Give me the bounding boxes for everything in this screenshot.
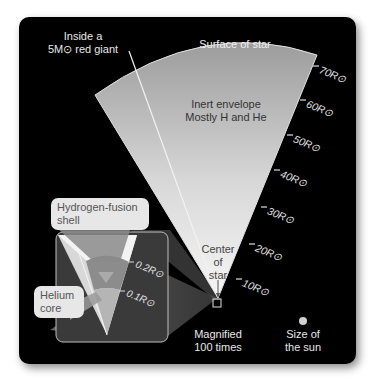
hydrogen-shell-line-1: Hydrogen-fusion: [57, 201, 143, 214]
magnified-line-2: 100 times: [188, 341, 248, 354]
helium-core-callout: Helium core: [34, 286, 84, 318]
envelope-label: Inert envelope Mostly H and He: [166, 98, 286, 124]
sun-size-dot: [299, 317, 307, 325]
magnified-line-1: Magnified: [188, 328, 248, 341]
center-label: Center of star: [193, 243, 243, 282]
helium-core-line-1: Helium: [40, 289, 78, 302]
sun-label: Size of the sun: [278, 328, 328, 354]
title-line-1: Inside a: [38, 30, 128, 43]
magnified-label: Magnified 100 times: [188, 328, 248, 354]
surface-label: Surface of star: [180, 38, 290, 51]
envelope-line-2: Mostly H and He: [166, 111, 286, 124]
center-line-2: of: [193, 256, 243, 269]
center-line-3: star: [193, 269, 243, 282]
sun-line-2: the sun: [278, 341, 328, 354]
title-line-2: 5M⊙ red giant: [38, 43, 128, 56]
hydrogen-shell-callout: Hydrogen-fusion shell: [51, 198, 149, 230]
helium-core-line-2: core: [40, 302, 78, 315]
hydrogen-shell-line-2: shell: [57, 214, 143, 227]
center-line-1: Center: [193, 243, 243, 256]
envelope-line-1: Inert envelope: [166, 98, 286, 111]
sun-line-1: Size of: [278, 328, 328, 341]
diagram-title: Inside a 5M⊙ red giant: [38, 30, 128, 56]
